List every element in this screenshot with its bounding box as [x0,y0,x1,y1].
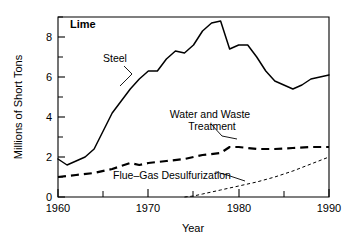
y-axis-label: Millions of Short Tons [12,54,24,159]
y-tick-label-2: 2 [46,151,52,163]
annotation-water-line2: Treatment [188,120,236,132]
series-line-steel [58,21,329,165]
chart-figure: 0 2 4 6 8 1960 1970 1980 1990 Year Milli… [0,0,357,244]
x-tick-label-1960: 1960 [46,202,70,214]
plot-title: Lime [70,18,96,30]
x-tick-label-1990: 1990 [317,202,341,214]
y-tick-label-4: 4 [46,111,52,123]
x-tick-label-1980: 1980 [227,202,251,214]
x-axis-label: Year [182,222,205,234]
leader-line-steel [120,66,132,86]
x-axis-ticks [58,189,329,197]
annotation-water-line1: Water and Waste [170,108,250,120]
y-tick-label-8: 8 [46,31,52,43]
y-tick-label-6: 6 [46,71,52,83]
annotation-steel: Steel [103,52,127,64]
y-axis-tick-labels: 0 2 4 6 8 [46,31,52,203]
x-axis-tick-labels: 1960 1970 1980 1990 [46,202,341,214]
lime-consumption-line-chart: 0 2 4 6 8 1960 1970 1980 1990 Year Milli… [0,0,357,244]
y-axis-ticks [58,17,65,197]
annotation-fgd: Flue–Gas Desulfurization [113,169,231,181]
x-tick-label-1970: 1970 [136,202,160,214]
